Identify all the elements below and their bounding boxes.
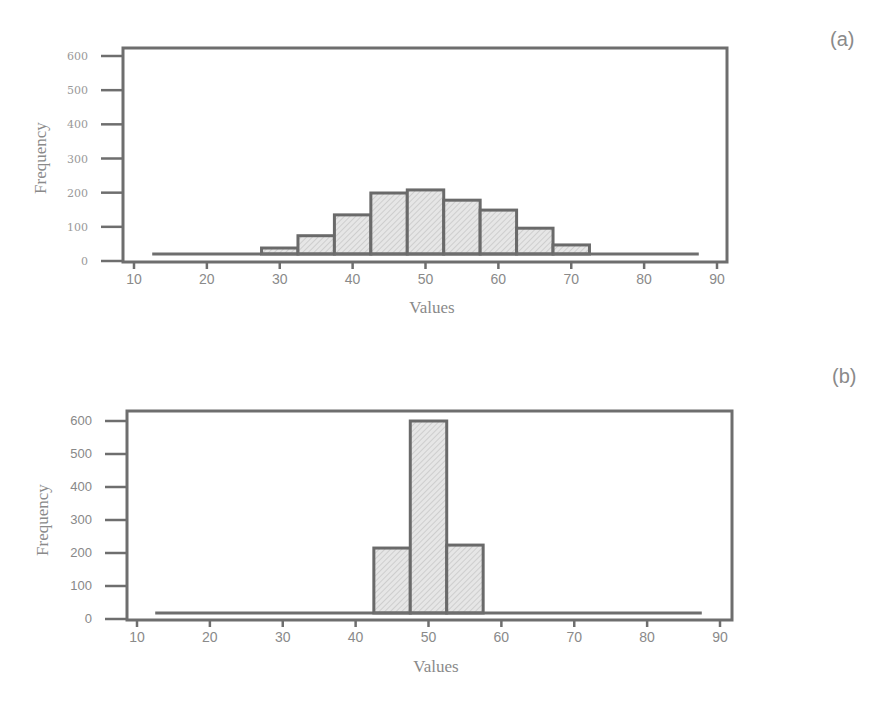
x-tick-label: 30 — [275, 629, 291, 645]
x-tick-label: 60 — [494, 629, 510, 645]
x-tick-label: 70 — [566, 629, 582, 645]
x-tick-label: 30 — [272, 271, 288, 287]
x-tick-label: 40 — [345, 271, 361, 287]
y-tick-label: 600 — [67, 50, 88, 63]
y-tick-label: 600 — [70, 413, 92, 428]
x-axis-title: Values — [413, 657, 458, 676]
histogram-bar — [480, 210, 516, 254]
y-tick-label: 0 — [81, 255, 88, 268]
y-tick-label: 100 — [67, 221, 88, 234]
histogram-bar — [447, 545, 483, 613]
x-tick-label: 70 — [563, 271, 579, 287]
x-tick-label: 50 — [418, 271, 434, 287]
y-tick-label: 100 — [70, 578, 92, 593]
histogram-bar — [334, 215, 370, 254]
y-tick-label: 0 — [85, 611, 92, 626]
histogram-bar — [410, 421, 446, 613]
y-tick-label: 300 — [70, 512, 92, 527]
x-tick-label: 10 — [129, 629, 145, 645]
histogram-bar — [374, 548, 410, 613]
y-tick-label: 300 — [67, 153, 88, 166]
y-tick-label: 400 — [70, 479, 92, 494]
histogram-figure: 0100200300400500600102030405060708090Val… — [0, 0, 896, 702]
x-axis-title: Values — [409, 298, 454, 317]
histogram-bar — [298, 236, 334, 254]
x-tick-label: 20 — [202, 629, 218, 645]
x-tick-label: 80 — [639, 629, 655, 645]
histogram-b: 0100200300400500600102030405060708090Val… — [33, 411, 732, 676]
x-tick-label: 50 — [421, 629, 437, 645]
histogram-bar — [444, 200, 480, 254]
y-tick-label: 200 — [70, 545, 92, 560]
x-tick-label: 90 — [712, 629, 728, 645]
x-tick-label: 90 — [709, 271, 725, 287]
x-tick-label: 20 — [199, 271, 215, 287]
histogram-bar — [517, 228, 553, 254]
x-tick-label: 60 — [491, 271, 507, 287]
histogram-a: 0100200300400500600102030405060708090Val… — [31, 48, 727, 317]
y-axis-title: Frequency — [33, 484, 52, 556]
x-tick-label: 80 — [636, 271, 652, 287]
histogram-bar — [371, 193, 407, 254]
y-tick-label: 500 — [70, 446, 92, 461]
histogram-bar — [407, 190, 443, 254]
y-tick-label: 400 — [67, 118, 88, 131]
y-tick-label: 200 — [67, 187, 88, 200]
x-tick-label: 10 — [126, 271, 142, 287]
x-tick-label: 40 — [348, 629, 364, 645]
y-axis-title: Frequency — [31, 122, 50, 194]
y-tick-label: 500 — [67, 84, 88, 97]
